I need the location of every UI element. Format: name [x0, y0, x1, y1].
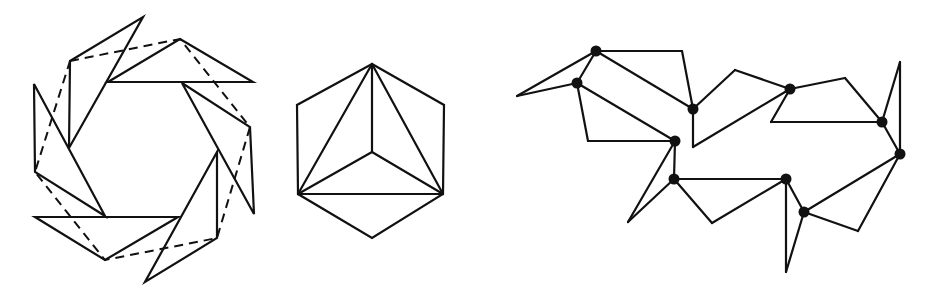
joint-node [670, 136, 681, 147]
triangle [108, 39, 253, 82]
chain-segment [786, 179, 804, 212]
chain-segment [674, 141, 675, 179]
chain-segment [804, 154, 900, 212]
joint-node [688, 104, 699, 115]
diagram-canvas [0, 0, 934, 295]
hexagon-figure [297, 64, 444, 238]
chain-segment [682, 51, 693, 109]
joint-node [781, 174, 792, 185]
chain-segment [517, 83, 577, 96]
triangle [35, 217, 178, 260]
chain-segment [712, 179, 786, 223]
chain-segment [882, 122, 900, 154]
chain-segment [628, 141, 675, 222]
chain-segment [577, 83, 675, 141]
chain-figure [517, 46, 906, 273]
joint-node [895, 149, 906, 160]
chain-segment [693, 70, 735, 109]
chain-segment [804, 212, 858, 231]
chain-segment [577, 83, 588, 141]
hexagon-outline [297, 64, 444, 238]
chain-segment [882, 62, 900, 122]
chain-segment [735, 70, 790, 89]
joint-node [785, 84, 796, 95]
chain-segment [845, 78, 882, 122]
diagram-svg [0, 0, 934, 295]
chain-segment [786, 212, 804, 272]
joint-node [669, 174, 680, 185]
chain-segment [674, 179, 712, 223]
pinwheel-figure [34, 17, 254, 282]
chain-segment [596, 51, 693, 109]
joint-node [877, 117, 888, 128]
chain-segment [628, 179, 674, 222]
chain-segment [693, 89, 790, 147]
joint-node [572, 78, 583, 89]
chain-segment [517, 51, 596, 96]
joint-node [799, 207, 810, 218]
chain-segment [790, 78, 845, 89]
joint-node [591, 46, 602, 57]
